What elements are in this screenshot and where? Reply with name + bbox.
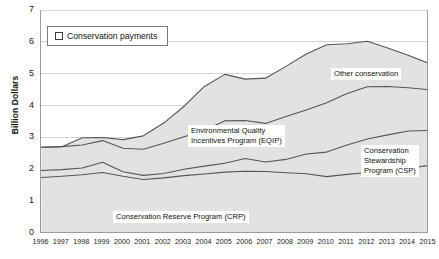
legend-label: Conservation payments <box>67 31 157 41</box>
y-tick-1: 1 <box>8 196 34 205</box>
series-label-eqip: Environmental Quality Incentives Program… <box>188 125 285 147</box>
y-tick-7: 7 <box>8 5 34 14</box>
y-tick-0: 0 <box>8 228 34 237</box>
series-label-crp: Conservation Reserve Program (CRP) <box>113 211 249 223</box>
conservation-payments-chart: Billion Dollars 01234567 199619971998199… <box>0 0 439 259</box>
chart-legend: Conservation payments <box>47 26 168 46</box>
series-label-other-conservation: Other conservation <box>331 68 401 80</box>
y-tick-6: 6 <box>8 37 34 46</box>
y-tick-4: 4 <box>8 101 34 110</box>
y-tick-3: 3 <box>8 132 34 141</box>
y-tick-2: 2 <box>8 164 34 173</box>
series-label-csp: Conservation Stewardship Program (CSP) <box>361 145 419 177</box>
x-tick-2015: 2015 <box>413 238 439 245</box>
square-marker-icon <box>55 32 63 40</box>
y-tick-5: 5 <box>8 69 34 78</box>
